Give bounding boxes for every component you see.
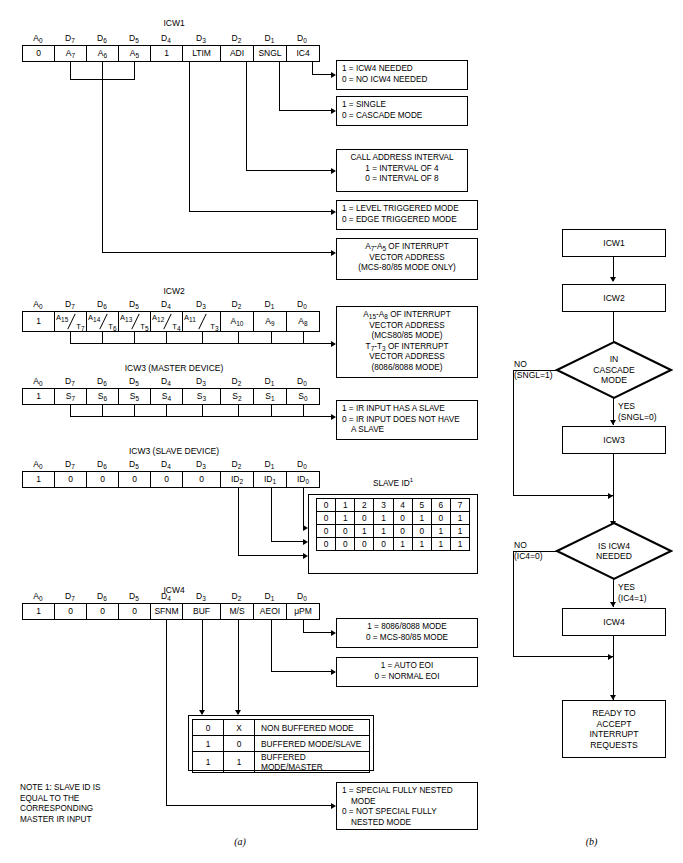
icw1-a6-stub — [102, 62, 103, 80]
icw3m-cell-a0: 1 — [23, 389, 55, 404]
figure-note: NOTE 1: SLAVE ID IS EQUAL TO THE CORRESP… — [20, 783, 170, 825]
icw3m-comb-h — [70, 416, 332, 417]
callout-icw2-line3: (MCS80/85 MODE) — [342, 331, 472, 342]
slave-id-h0: 0 — [317, 499, 336, 512]
callout-aeoi-line1: 1 = AUTO EOI — [342, 661, 472, 672]
callout-a7a5-line2: VECTOR ADDRESS — [342, 253, 472, 264]
slave-id-r0c0: 0 — [317, 512, 336, 525]
slave-id-h4: 4 — [393, 499, 412, 512]
flow-icw4-box: ICW4 — [562, 608, 666, 636]
flow-arrow2-line — [613, 312, 614, 342]
icw2-cell-d5: A13T5 — [119, 312, 151, 331]
callout-icw2-line6: (8086/8088 MODE) — [342, 363, 472, 374]
icw4-cell-d7: 0 — [55, 604, 87, 619]
flow-icw4-yes-arrow — [610, 602, 616, 607]
flow-cascade-yes-label: YES (SNGL=0) — [618, 401, 657, 422]
icw1-cell-d3: LTIM — [183, 46, 221, 61]
icw4-cell-d2: M/S — [221, 604, 254, 619]
icw2-cell-d6: A14T6 — [87, 312, 119, 331]
buffered-r2-label: BUFFERED MODE/MASTER — [255, 752, 370, 773]
slave-id-title: SLAVE ID1 — [308, 478, 478, 488]
icw3-slave-cells: 1 0 0 0 0 0 ID2 ID1 ID0 — [22, 471, 320, 488]
icw1-cell-d4: 1 — [151, 46, 183, 61]
icw2-cell-a0: 1 — [23, 312, 55, 331]
slave-id-r1c5: 0 — [412, 525, 431, 538]
flow-icw4-no-rejoin — [513, 656, 614, 657]
slave-id-r1c3: 1 — [374, 525, 393, 538]
callout-ic4-line2: 0 = NO ICW4 NEEDED — [342, 75, 462, 86]
buffered-r2-buf: 1 — [193, 752, 224, 773]
icw1-ic4-lead-h — [312, 74, 332, 75]
slave-id-r2c0: 0 — [317, 538, 336, 551]
flow-ready-line3: INTERRUPT — [589, 729, 638, 740]
slave-id-r2c1: 0 — [336, 538, 355, 551]
icw4-cell-d3: BUF — [183, 604, 221, 619]
icw2-cell-d4: A12T4 — [151, 312, 183, 331]
flow-icw4-yes-line1: YES — [618, 582, 647, 593]
icw1-headers: A0D7 D6D5 D4D3 D2D1 D0 — [22, 33, 318, 44]
icw4-cell-d5: 0 — [119, 604, 151, 619]
icw1-sngl-lead-v — [279, 62, 280, 111]
flow-icw4-down — [613, 636, 614, 700]
flow-cascade-yes-arrow — [610, 420, 616, 425]
icw1-cell-d6: A6 — [87, 46, 119, 61]
icw1-title: ICW1 — [144, 18, 204, 28]
note-line2: EQUAL TO THE — [20, 794, 170, 805]
buffered-r1-ms: 0 — [224, 736, 255, 752]
flow-icw4-no-line1: NO — [514, 540, 543, 551]
note-line4: MASTER IR INPUT — [20, 815, 170, 826]
icw4-cells: 1 0 0 0 SFNM BUF M/S AEOI μPM — [22, 603, 320, 620]
slave-id-r0c6: 0 — [431, 512, 450, 525]
slave-id-table: 0 1 2 3 4 5 6 7 0 1 0 1 0 1 0 1 0 0 1 1 … — [316, 498, 470, 551]
callout-sfnm-line1: 1 = SPECIAL FULLY NESTED — [342, 786, 472, 797]
slave-id-r1c6: 1 — [431, 525, 450, 538]
icw3-master-title: ICW3 (MASTER DEVICE) — [104, 363, 244, 373]
callout-icw2-line1: A15-A8 OF INTERRUPT — [342, 310, 472, 321]
icw3s-lead-id2 — [238, 555, 304, 556]
icw3-slave-headers: A0D7 D6D5 D4D3 D2D1 D0 — [22, 459, 318, 470]
flow-icw3-box: ICW3 — [562, 426, 666, 454]
icw4-cell-d1: AEOI — [254, 604, 287, 619]
buffered-row-2: 1 1 BUFFERED MODE/MASTER — [193, 752, 370, 773]
icw4-headers: A0D7 D6D5 D4D3 D2D1 D0 — [22, 591, 318, 602]
icw3s-cell-d2: ID2 — [221, 472, 254, 487]
icw1-cell-d2: ADI — [221, 46, 254, 61]
slave-id-h2: 2 — [355, 499, 374, 512]
slave-id-r0c7: 1 — [450, 512, 469, 525]
callout-sngl-line2: 0 = CASCADE MODE — [342, 111, 462, 122]
icw3m-cell-d6: S6 — [87, 389, 119, 404]
icw1-adi-lead-h — [246, 170, 332, 171]
callout-icw2-line4: T7-T3 OF INTERRUPT — [342, 342, 472, 353]
slave-id-r2c5: 1 — [412, 538, 431, 551]
flow-icw2-box: ICW2 — [562, 284, 666, 312]
callout-a7a5-line3: (MCS-80/85 MODE ONLY) — [342, 263, 472, 274]
slave-id-r0c3: 1 — [374, 512, 393, 525]
callout-adi-line1: CALL ADDRESS INTERVAL — [342, 153, 462, 164]
icw1-ltim-lead-h — [189, 211, 332, 212]
icw4-cell-a0: 1 — [23, 604, 55, 619]
icw4-cell-d6: 0 — [87, 604, 119, 619]
flow-cascade-no-h — [513, 370, 558, 371]
flow-cascade-yes-line1: YES — [618, 401, 657, 412]
callout-ic4: 1 = ICW4 NEEDED 0 = NO ICW4 NEEDED — [336, 60, 468, 90]
buffered-mode-table: 0 X NON BUFFERED MODE 1 0 BUFFERED MODE/… — [192, 719, 370, 773]
icw2-cell-d1: A9 — [254, 312, 287, 331]
callout-sfnm-line4: NESTED MODE — [342, 818, 472, 829]
icw4-ms-lead-v — [238, 620, 239, 714]
slave-id-h3: 3 — [374, 499, 393, 512]
icw3s-stub-id0 — [303, 488, 304, 528]
callout-ltim-line1: 1 = LEVEL TRIGGERED MODE — [342, 204, 472, 215]
slave-id-r2c2: 0 — [355, 538, 374, 551]
icw2-headers: A0D7 D6D5 D4D3 D2D1 D0 — [22, 299, 318, 310]
icw4-cell-d0: μPM — [287, 604, 319, 619]
slave-id-h1: 1 — [336, 499, 355, 512]
icw4-buf-lead-v — [202, 620, 203, 714]
slave-id-r0c5: 1 — [412, 512, 431, 525]
buffered-r1-buf: 1 — [193, 736, 224, 752]
icw4-upm-lead-h — [303, 632, 332, 633]
slave-id-row-id0: 0 1 0 1 0 1 0 1 — [317, 512, 470, 525]
icw4-sfnm-lead-v — [166, 620, 167, 806]
note-line3: CORRESPONDING — [20, 804, 170, 815]
callout-adi: CALL ADDRESS INTERVAL 1 = INTERVAL OF 4 … — [336, 149, 468, 192]
icw3s-cell-d4: 0 — [151, 472, 183, 487]
